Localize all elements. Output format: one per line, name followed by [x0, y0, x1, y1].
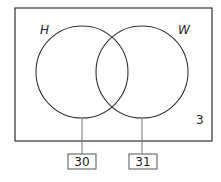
set-w-circle — [96, 26, 188, 118]
venn-diagram: H W 3 30 31 — [0, 0, 221, 182]
set-w-label: W — [178, 23, 191, 37]
value-w: 31 — [135, 155, 150, 169]
outside-value: 3 — [196, 113, 204, 127]
value-h: 30 — [74, 155, 89, 169]
set-h-circle — [36, 26, 128, 118]
set-h-label: H — [40, 23, 49, 37]
